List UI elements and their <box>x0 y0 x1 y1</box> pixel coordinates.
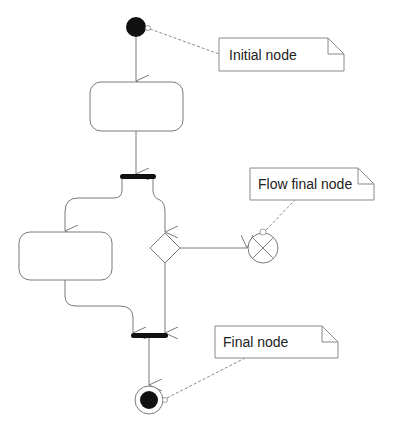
activity-diagram: Initial node Flow final node <box>0 0 394 436</box>
action-node-2[interactable] <box>19 232 112 280</box>
note-connector-flow-final <box>266 200 295 230</box>
note-connector-initial <box>150 29 219 54</box>
action-node-1[interactable] <box>90 82 183 131</box>
note-initial-label: Initial node <box>229 47 297 63</box>
decision-node[interactable] <box>150 233 180 263</box>
anchor-circle-icon <box>146 26 151 31</box>
note-flow-final-label: Flow final node <box>258 176 352 192</box>
note-connector-final <box>167 358 245 398</box>
note-final-node[interactable]: Final node <box>215 326 338 358</box>
note-final-label: Final node <box>223 334 289 350</box>
initial-node[interactable] <box>126 17 151 37</box>
flow-final-node[interactable] <box>248 229 278 263</box>
fork-bar[interactable] <box>120 174 156 179</box>
join-bar[interactable] <box>131 333 168 338</box>
note-initial-node[interactable]: Initial node <box>219 38 344 71</box>
edge-fork-to-decision <box>153 179 165 232</box>
final-node[interactable] <box>135 386 168 414</box>
anchor-circle-icon <box>260 229 266 235</box>
edge-fork-to-action2 <box>65 179 122 231</box>
edge-action2-to-join <box>65 280 133 333</box>
note-flow-final-node[interactable]: Flow final node <box>250 168 374 200</box>
anchor-circle-icon <box>163 398 168 403</box>
